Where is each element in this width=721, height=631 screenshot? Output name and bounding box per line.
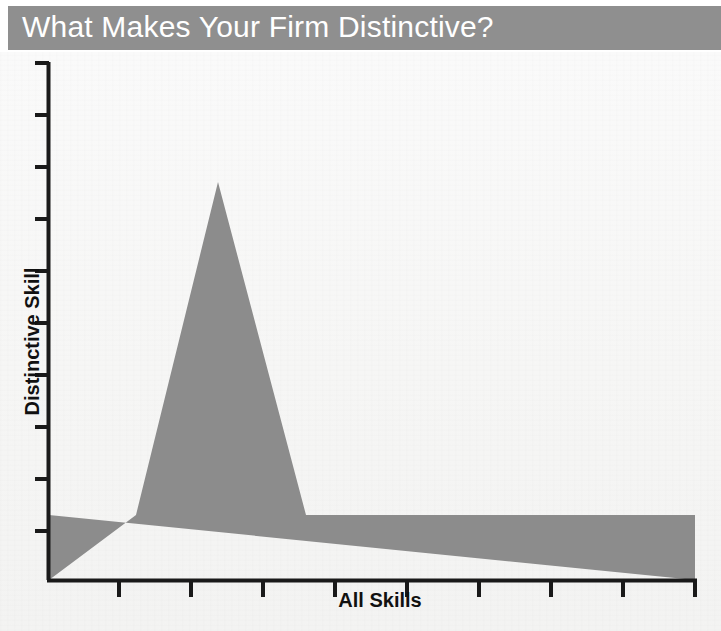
area-chart [0, 52, 721, 631]
y-axis-label: Distinctive Skill [21, 262, 44, 422]
x-axis-label: All Skills [290, 589, 470, 612]
chart-container: Distinctive Skill All Skills [0, 52, 721, 631]
page-title: What Makes Your Firm Distinctive? [22, 10, 494, 44]
slide-title-bar: What Makes Your Firm Distinctive? [8, 6, 721, 50]
series-area-distinctiveness [49, 182, 695, 580]
slide-page: What Makes Your Firm Distinctive? [0, 0, 721, 631]
